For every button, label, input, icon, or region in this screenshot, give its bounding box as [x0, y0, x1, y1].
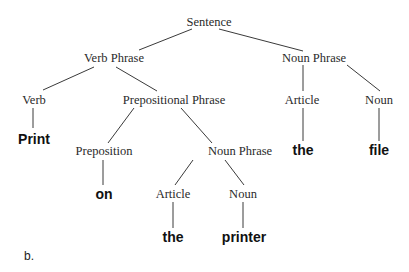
node-prepositional-phrase: Prepositional Phrase [123, 93, 225, 108]
node-verb: Verb [22, 93, 46, 108]
node-noun-phrase-top: Noun Phrase [282, 51, 346, 66]
edge-pp-np-inner [181, 108, 212, 143]
node-verb-phrase: Verb Phrase [84, 51, 144, 66]
edge-np-inner-noun [225, 160, 244, 185]
tree-edges [0, 0, 409, 272]
node-article-top: Article [285, 93, 320, 108]
edge-np-noun [347, 65, 380, 91]
edge-vp-pp [116, 67, 157, 91]
word-the-top: the [293, 142, 314, 158]
edge-sentence-vp [139, 29, 192, 50]
word-printer: printer [222, 229, 266, 245]
word-on: on [95, 186, 112, 202]
edge-vp-verb [43, 67, 94, 90]
word-file: file [369, 142, 389, 158]
node-noun-phrase-inner: Noun Phrase [208, 144, 272, 159]
word-the-inner: the [163, 229, 184, 245]
parse-tree-diagram: Sentence Verb Phrase Noun Phrase Verb Pr… [0, 0, 409, 272]
node-noun-top: Noun [365, 93, 393, 108]
node-article-inner: Article [156, 187, 191, 202]
edge-sentence-np [219, 29, 303, 51]
node-noun-inner: Noun [229, 187, 257, 202]
node-preposition: Preposition [76, 144, 133, 159]
figure-caption: b. [24, 249, 34, 263]
node-sentence: Sentence [186, 15, 231, 30]
edge-np-inner-article [175, 160, 193, 185]
word-print: Print [18, 131, 50, 147]
edge-pp-preposition [108, 108, 134, 143]
